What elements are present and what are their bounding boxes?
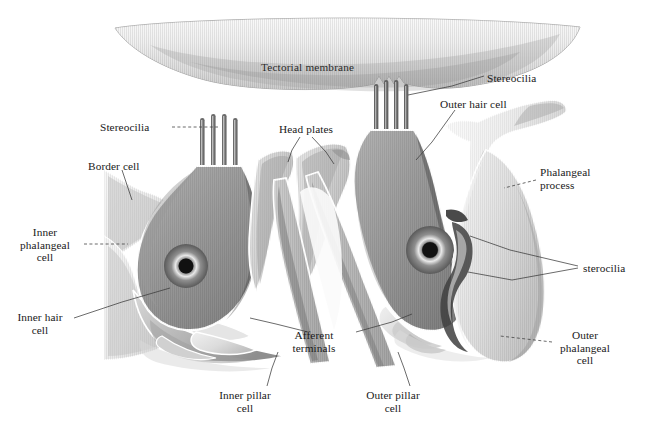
organ-of-corti-figure: Tectorial membrane Stereocilia Outer hai… <box>0 0 653 438</box>
label-border-cell: Border cell <box>88 160 140 173</box>
inner-stereocilia <box>200 114 238 168</box>
inner-hair-cell-nucleus <box>164 244 208 288</box>
outer-hair-cell-nucleus <box>406 226 454 274</box>
label-stereocilia-left: Stereocilia <box>100 121 149 134</box>
inner-hair-cell-body <box>137 114 260 330</box>
leader-outer-pillar-cell <box>398 352 410 386</box>
label-inner-phalangeal-cell: Inner phalangeal cell <box>0 226 90 264</box>
label-outer-phalangeal-cell: Outer phalangeal cell <box>530 329 640 367</box>
label-tectorial-membrane: Tectorial membrane <box>261 61 354 73</box>
label-afferent-terminals: Afferent terminals <box>278 329 350 354</box>
label-inner-hair-cell: Inner hair cell <box>0 311 80 336</box>
label-outer-pillar-cell: Outer pillar cell <box>352 389 434 414</box>
label-head-plates: Head plates <box>279 123 333 136</box>
label-phalangeal-process: Phalangeal process <box>540 166 591 191</box>
label-stereocilia-right-top: Stereocilia <box>487 72 536 85</box>
label-outer-hair-cell: Outer hair cell <box>440 98 507 111</box>
label-sterocilia-right-lower: sterocilia <box>583 262 625 275</box>
label-inner-pillar-cell: Inner pillar cell <box>205 389 285 414</box>
